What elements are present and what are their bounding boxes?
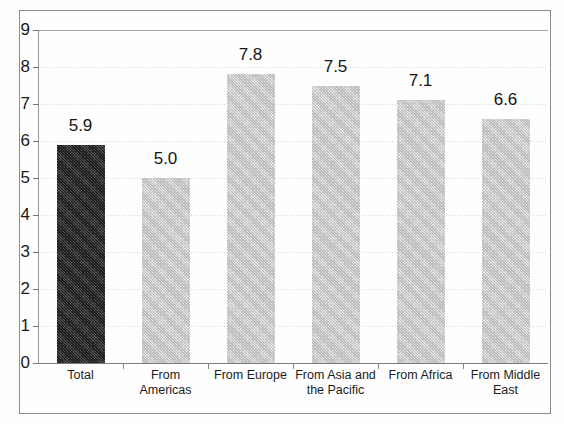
y-axis-labels: 0123456789 xyxy=(2,0,30,424)
category-label-line: Total xyxy=(38,368,123,383)
bar-value-label: 7.8 xyxy=(211,46,291,63)
bar xyxy=(397,100,445,363)
y-tick-label: 6 xyxy=(8,132,30,149)
y-tick-label: 5 xyxy=(8,169,30,186)
bar xyxy=(312,86,360,364)
y-tick-label: 9 xyxy=(8,21,30,38)
category-label: From MiddleEast xyxy=(463,368,548,398)
bar-value-label: 5.9 xyxy=(41,117,121,134)
scanned-page-background: 0123456789 5.95.07.87.57.16.6 TotalFromA… xyxy=(0,0,564,424)
category-label: From Asia andthe Pacific xyxy=(293,368,378,398)
category-label-line: From Asia and xyxy=(293,368,378,383)
category-label-line: Americas xyxy=(123,383,208,398)
category-label-line: From Europe xyxy=(208,368,293,383)
y-tick-label: 1 xyxy=(8,317,30,334)
bar xyxy=(482,119,530,363)
bar-fill xyxy=(397,100,445,363)
category-label: From Europe xyxy=(208,368,293,383)
bar-fill xyxy=(482,119,530,363)
bar-series xyxy=(38,30,548,363)
category-label-line: From Africa xyxy=(378,368,463,383)
y-tick-label: 3 xyxy=(8,243,30,260)
category-label-line: From Middle xyxy=(463,368,548,383)
bar-fill xyxy=(57,145,105,363)
bar xyxy=(227,74,275,363)
y-tick-label: 2 xyxy=(8,280,30,297)
bar-value-label: 6.6 xyxy=(466,91,546,108)
bar xyxy=(57,145,105,363)
bar-value-label: 7.5 xyxy=(296,58,376,75)
category-label-line: From xyxy=(123,368,208,383)
category-label: Total xyxy=(38,368,123,383)
bar-fill xyxy=(142,178,190,363)
y-tick-label: 8 xyxy=(8,58,30,75)
bar xyxy=(142,178,190,363)
y-tick-label: 4 xyxy=(8,206,30,223)
category-label: From Africa xyxy=(378,368,463,383)
bar-fill xyxy=(227,74,275,363)
category-label-line: the Pacific xyxy=(293,383,378,398)
bar-fill xyxy=(312,86,360,364)
bar-value-label: 5.0 xyxy=(126,150,206,167)
y-tick-label: 0 xyxy=(8,354,30,371)
bar-value-label: 7.1 xyxy=(381,72,461,89)
y-tick-label: 7 xyxy=(8,95,30,112)
category-label-line: East xyxy=(463,383,548,398)
x-axis-category-labels: TotalFromAmericasFrom EuropeFrom Asia an… xyxy=(38,368,548,414)
category-label: FromAmericas xyxy=(123,368,208,398)
